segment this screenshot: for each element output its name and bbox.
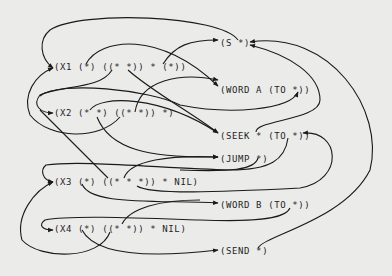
- action-send: (SEND *): [220, 246, 268, 256]
- edge-s-to-x1: [42, 18, 238, 68]
- pattern-x3: (X3 (*) ((* * *)) * NIL): [54, 177, 198, 187]
- pattern-x2: (X2 (* *) ((* *)) *): [54, 108, 174, 118]
- pattern-x4: (X4 (*) ((* *)) * NIL): [54, 224, 186, 234]
- edge-x1-to-s: [163, 40, 218, 64]
- diagram-canvas: (X1 (*) ((* *)) * (*)) (X2 (* *) ((* *))…: [0, 0, 392, 276]
- action-word-b: (WORD B (TO *)): [220, 200, 310, 210]
- action-word-a: (WORD A (TO *)): [220, 85, 310, 95]
- edge-x2-to-x1: [28, 68, 120, 134]
- pattern-x1: (X1 (*) ((* *)) * (*)): [54, 62, 186, 72]
- edges-layer: [0, 0, 392, 276]
- edge-x4-to-word-b-region: [122, 200, 200, 224]
- action-seek: (SEEK * (TO *)): [220, 131, 310, 141]
- action-jump: (JUMP *): [220, 154, 268, 164]
- action-s: (S *): [220, 38, 250, 48]
- edge-x2-to-jump: [97, 117, 218, 157]
- edge-send-to-s: [250, 41, 372, 248]
